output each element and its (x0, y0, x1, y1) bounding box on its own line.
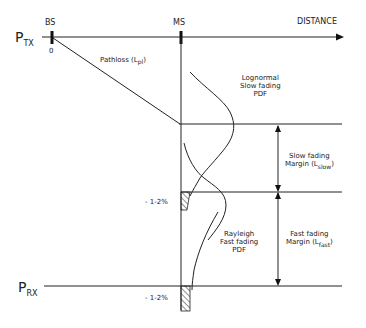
slow-outage-label: - 1-2% (145, 198, 168, 206)
slow-outage-region (181, 192, 190, 210)
fast-margin-arrow (275, 192, 281, 286)
fast-outage-region (181, 286, 190, 311)
ptx-label: PTX (15, 30, 34, 44)
distance-axis-label: DISTANCE (297, 18, 337, 26)
distance-axis (42, 34, 344, 41)
origin-label: 0 (49, 47, 53, 55)
fast-outage-label: - 1-2% (145, 294, 168, 302)
ms-label: MS (173, 19, 185, 27)
bs-label: BS (45, 19, 55, 27)
lognormal-pdf-curve (190, 72, 234, 196)
bs-tick (51, 31, 54, 44)
prx-label: PRX (18, 280, 38, 294)
slow-margin-arrow (275, 125, 281, 192)
fast-margin-label: Fast fading Margin (Lfast) (286, 230, 333, 246)
fading-margin-diagram: BS MS DISTANCE 0 PTX PRX Pathloss (Lpl) … (0, 0, 366, 328)
pathloss-label: Pathloss (Lpl) (100, 56, 146, 64)
rayleigh-pdf-label: Rayleigh Fast fading PDF (220, 230, 258, 254)
rayleigh-pdf-curve (192, 212, 218, 290)
slow-margin-label: Slow fading Margin (Lslow) (285, 152, 334, 168)
pathloss-line (53, 38, 180, 124)
lognormal-pdf-label: Lognormal Slow fading PDF (240, 74, 281, 98)
